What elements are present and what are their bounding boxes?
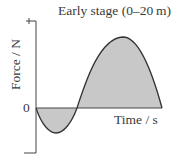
zero-label: 0 [23, 100, 30, 116]
chart-title: Early stage (0–20 m) [58, 3, 171, 19]
y-axis-label: Force / N [8, 39, 24, 90]
force-time-diagram [0, 0, 172, 164]
x-axis-label: Time / s [114, 112, 158, 128]
